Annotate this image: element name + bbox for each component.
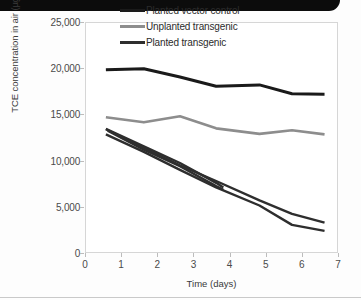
legend-label: Unplanted transgenic (146, 21, 238, 32)
series-lines-svg (86, 23, 339, 254)
x-tick-mark (266, 253, 267, 257)
x-tick-mark (85, 253, 86, 257)
legend-item: Planted vector control (120, 4, 239, 17)
chart-legend: Planted vector controlUnplanted transgen… (120, 4, 239, 49)
y-axis-tick-marks (0, 22, 86, 253)
x-axis-title: Time (days) (85, 278, 338, 289)
x-tick-mark (121, 253, 122, 257)
legend-swatch-icon (120, 41, 145, 44)
y-tick-mark (80, 22, 84, 23)
x-tick-label: 5 (254, 259, 278, 270)
x-tick-label: 6 (290, 259, 314, 270)
x-tick-label: 0 (73, 259, 97, 270)
legend-item: Unplanted transgenic (120, 20, 239, 33)
plot-area-frame (85, 22, 338, 253)
x-tick-label: 2 (145, 259, 169, 270)
x-tick-mark (338, 253, 339, 257)
legend-swatch-icon (120, 9, 145, 12)
x-tick-mark (230, 253, 231, 257)
legend-label: Planted transgenic (146, 37, 226, 48)
x-tick-label: 4 (218, 259, 242, 270)
x-tick-label: 1 (109, 259, 133, 270)
x-tick-mark (193, 253, 194, 257)
legend-swatch-icon (120, 25, 145, 28)
x-tick-mark (302, 253, 303, 257)
y-tick-mark (80, 253, 84, 254)
y-tick-mark (80, 161, 84, 162)
figure-container: TCE concentration in air (µg/m3) 05,0001… (0, 0, 361, 300)
x-tick-mark (157, 253, 158, 257)
y-tick-mark (80, 68, 84, 69)
plot-area (86, 23, 337, 252)
series-line (106, 116, 325, 134)
x-tick-label: 7 (326, 259, 350, 270)
y-tick-mark (80, 114, 84, 115)
y-tick-mark (80, 207, 84, 208)
legend-item: Planted transgenic (120, 36, 239, 49)
x-axis-tick-labels: 01234567 (85, 253, 338, 275)
legend-label: Planted vector control (146, 5, 239, 16)
x-tick-label: 3 (181, 259, 205, 270)
series-line (106, 69, 325, 94)
bottom-divider (0, 297, 361, 298)
